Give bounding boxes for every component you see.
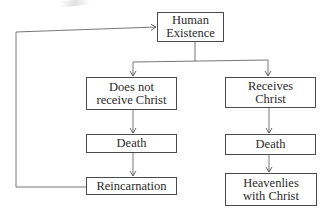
node-label: with Christ: [243, 190, 299, 203]
node-heavenlies-with-christ: Heavenlies with Christ: [225, 173, 317, 206]
node-death-right: Death: [225, 134, 316, 155]
node-label: Christ: [248, 93, 293, 106]
node-label: Does not: [97, 81, 167, 94]
branch-line: [133, 60, 268, 62]
node-reincarnation: Reincarnation: [86, 177, 177, 195]
node-human-existence: Human Existence: [157, 12, 224, 42]
node-death-left: Death: [86, 134, 177, 153]
node-label: Death: [117, 137, 147, 150]
node-label: Receives: [248, 80, 293, 93]
node-label: Death: [256, 138, 286, 151]
node-does-not-receive-christ: Does not receive Christ: [86, 77, 177, 110]
node-receives-christ: Receives Christ: [225, 77, 316, 108]
node-label: Existence: [166, 27, 215, 40]
node-label: receive Christ: [97, 94, 167, 107]
node-label: Reincarnation: [96, 180, 166, 193]
node-label: Heavenlies: [243, 177, 299, 190]
